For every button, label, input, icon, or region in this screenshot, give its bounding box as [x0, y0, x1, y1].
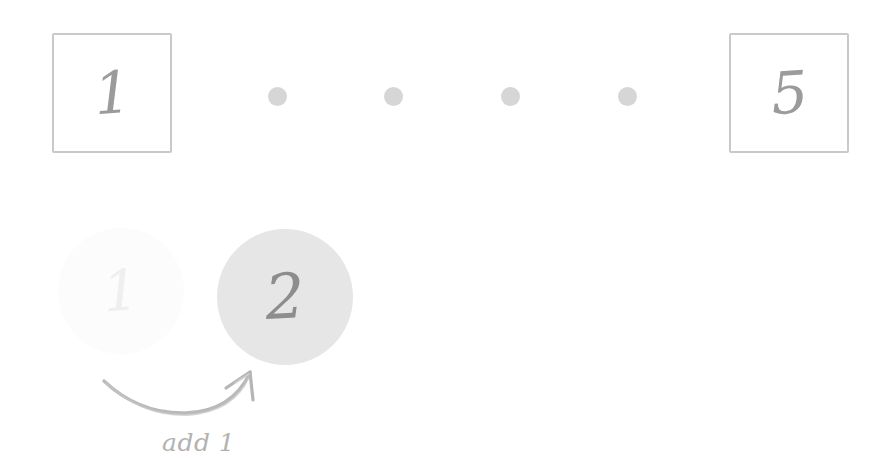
- sequence-cell-last-value: 5: [769, 63, 810, 123]
- current-state-bubble[interactable]: 2: [217, 229, 353, 365]
- ellipsis-dot: [618, 87, 637, 106]
- diagram-canvas: 1 5 1 2 add 1: [0, 0, 895, 475]
- sequence-cell-first[interactable]: 1: [52, 33, 172, 153]
- ellipsis-dot: [501, 87, 520, 106]
- previous-state-bubble: 1: [58, 228, 184, 354]
- current-state-value: 2: [264, 265, 307, 329]
- sequence-cell-last[interactable]: 5: [729, 33, 849, 153]
- ellipsis-dot: [268, 87, 287, 106]
- previous-state-value: 1: [101, 262, 141, 321]
- transition-caption: add 1: [162, 428, 235, 457]
- ellipsis-dot: [384, 87, 403, 106]
- curved-arrow-up-right-icon: [90, 350, 290, 430]
- sequence-cell-first-value: 1: [92, 63, 133, 123]
